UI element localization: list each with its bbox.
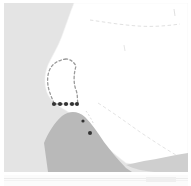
shaded-territory-shape — [44, 112, 132, 172]
shaded-territory-region — [4, 3, 188, 172]
frame-margin-top — [0, 0, 191, 3]
secondary-map-panel[interactable] — [4, 175, 188, 186]
frame-margin-left — [0, 0, 4, 186]
shaded-territory-light-shape — [126, 153, 188, 172]
frame-margin-right — [188, 0, 191, 186]
map-thumbnail-viewport — [0, 0, 191, 186]
map-panel[interactable] — [4, 3, 188, 172]
secondary-panel-blob — [146, 177, 176, 182]
